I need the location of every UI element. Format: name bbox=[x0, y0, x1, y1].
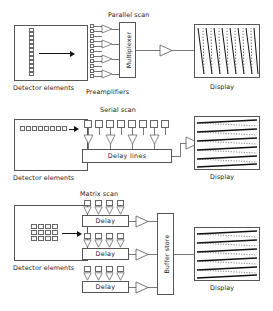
element-drop-wire bbox=[121, 128, 122, 135]
serial-element bbox=[117, 120, 125, 128]
serial-element bbox=[84, 120, 92, 128]
display-caption-serial: Display bbox=[210, 173, 234, 181]
scan-direction-arrow bbox=[62, 233, 78, 234]
delay-lines-label: Delay lines bbox=[108, 152, 147, 160]
display-input-wire bbox=[172, 50, 194, 51]
display-caption-matrix: Display bbox=[210, 284, 234, 292]
delay-label: Delay bbox=[96, 217, 116, 225]
detector-panel-matrix bbox=[14, 205, 88, 261]
delay-box: Delay bbox=[82, 215, 129, 227]
delay-output-wire bbox=[172, 156, 180, 157]
amplifier-triangle bbox=[83, 239, 92, 248]
serial-element bbox=[139, 120, 147, 128]
buffer-store-box: Buffer store bbox=[157, 213, 174, 295]
preamp-output-wire bbox=[112, 29, 119, 30]
display-scan-pattern bbox=[195, 25, 259, 77]
detector-element bbox=[31, 224, 37, 229]
output-amplifier-triangle bbox=[135, 281, 149, 294]
detector-element bbox=[45, 224, 51, 229]
output-amplifier-triangle bbox=[135, 215, 149, 228]
detector-element bbox=[29, 72, 34, 76]
scan-title-parallel: Parallel scan bbox=[108, 11, 149, 19]
display-scan-pattern bbox=[195, 228, 259, 280]
amplifier-triangle bbox=[83, 272, 92, 281]
amplifier-triangle bbox=[94, 239, 103, 248]
serial-element bbox=[128, 120, 136, 128]
amplifier-triangle bbox=[116, 272, 125, 281]
scan-direction-arrow bbox=[39, 53, 71, 54]
delay-box: Delay bbox=[82, 281, 129, 293]
detector-element bbox=[52, 230, 58, 235]
detector-element bbox=[20, 126, 25, 131]
serial-element bbox=[150, 120, 158, 128]
display-scan-pattern bbox=[195, 117, 259, 169]
detector-panel-parallel bbox=[14, 25, 88, 81]
preamp-output-wire bbox=[112, 74, 119, 75]
detector-caption-serial: Detector elements bbox=[13, 174, 74, 182]
multiplexer-label: Multiplexer bbox=[124, 32, 131, 69]
display-input-wire bbox=[174, 254, 194, 255]
input-wire bbox=[94, 51, 102, 52]
detector-caption-matrix: Detector elements bbox=[13, 264, 74, 272]
row-matrix-scan: Matrix scan Detector elements bbox=[0, 183, 273, 311]
output-amplifier-triangle bbox=[135, 248, 149, 261]
display-panel-parallel bbox=[194, 24, 260, 78]
preamplifiers-caption: Preamplifiers bbox=[86, 88, 129, 96]
serial-element bbox=[161, 120, 169, 128]
detector-element bbox=[32, 126, 37, 131]
display-panel-matrix bbox=[194, 227, 260, 281]
amplifier-triangle bbox=[94, 206, 103, 215]
element-drop-wire bbox=[143, 128, 144, 135]
detector-element bbox=[38, 126, 43, 131]
amplifier-triangle bbox=[83, 206, 92, 215]
detector-element bbox=[52, 224, 58, 229]
element-drop-wire bbox=[165, 128, 166, 135]
row-parallel-scan: Parallel scan Detector elements bbox=[0, 0, 273, 105]
detector-element bbox=[31, 236, 37, 241]
preamp-output-wire bbox=[112, 59, 119, 60]
serial-element bbox=[106, 120, 114, 128]
detector-caption-parallel: Detector elements bbox=[13, 84, 74, 92]
detector-element bbox=[50, 126, 55, 131]
preamp-output-wire bbox=[112, 44, 119, 45]
multiplexer-box: Multiplexer bbox=[119, 22, 136, 78]
detector-element bbox=[52, 236, 58, 241]
detector-panel-serial bbox=[14, 119, 88, 171]
delay-label: Delay bbox=[96, 250, 116, 258]
delay-lines-box: Delay lines bbox=[82, 149, 172, 163]
multiplexer-output-wire bbox=[136, 50, 160, 51]
buffer-store-label: Buffer store bbox=[162, 235, 169, 274]
detector-element bbox=[31, 230, 37, 235]
display-caption-parallel: Display bbox=[210, 83, 234, 91]
delay-output-riser bbox=[180, 143, 181, 157]
input-wire bbox=[94, 66, 102, 67]
detector-element bbox=[38, 224, 44, 229]
amplifier-triangle bbox=[94, 272, 103, 281]
row-serial-scan: Serial scan Detector elements bbox=[0, 103, 273, 183]
scan-title-serial: Serial scan bbox=[100, 106, 136, 114]
amplifier-triangle bbox=[116, 206, 125, 215]
scan-direction-arrowhead bbox=[70, 51, 75, 57]
output-amplifier-triangle bbox=[159, 44, 173, 57]
detector-element bbox=[56, 126, 61, 131]
amplifier-triangle bbox=[105, 272, 114, 281]
scan-architecture-diagram: Parallel scan Detector elements bbox=[0, 0, 273, 311]
element-drop-wire bbox=[99, 128, 100, 135]
detector-element bbox=[45, 230, 51, 235]
delay-label: Delay bbox=[96, 283, 116, 291]
detector-element bbox=[45, 236, 51, 241]
input-wire bbox=[94, 36, 102, 37]
detector-element bbox=[38, 230, 44, 235]
amplifier-triangle bbox=[116, 239, 125, 248]
serial-element bbox=[95, 120, 103, 128]
detector-element bbox=[44, 126, 49, 131]
scan-direction-arrowhead bbox=[74, 126, 79, 132]
scan-direction-arrowhead bbox=[77, 231, 82, 237]
amplifier-triangle bbox=[105, 239, 114, 248]
delay-box: Delay bbox=[82, 248, 129, 260]
detector-element bbox=[26, 126, 31, 131]
amplifier-triangle bbox=[105, 206, 114, 215]
detector-element bbox=[62, 126, 67, 131]
display-panel-serial bbox=[194, 116, 260, 170]
scan-title-matrix: Matrix scan bbox=[80, 190, 118, 198]
